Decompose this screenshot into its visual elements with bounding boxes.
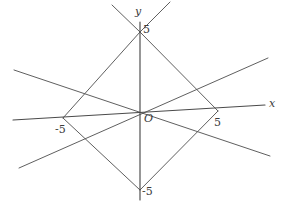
rhombus-edge-top-left	[63, 32, 140, 118]
x-positive-intercept-label: 5	[214, 117, 221, 128]
origin-label: O	[144, 113, 153, 124]
line-upper-left-to-lower-right	[14, 70, 270, 156]
y-axis-label: y	[135, 6, 141, 17]
rhombus-edge-top-right	[140, 32, 218, 111]
x-negative-intercept-label: -5	[55, 124, 66, 135]
x-axis	[13, 105, 265, 120]
rhombus-edge-left-bottom	[63, 118, 140, 190]
y-positive-intercept-label: 5	[143, 24, 150, 35]
y-negative-intercept-label: -5	[142, 186, 153, 197]
x-axis-label: x	[269, 98, 275, 109]
coordinate-plane-figure: y x O 5 -5 5 -5	[0, 0, 285, 217]
